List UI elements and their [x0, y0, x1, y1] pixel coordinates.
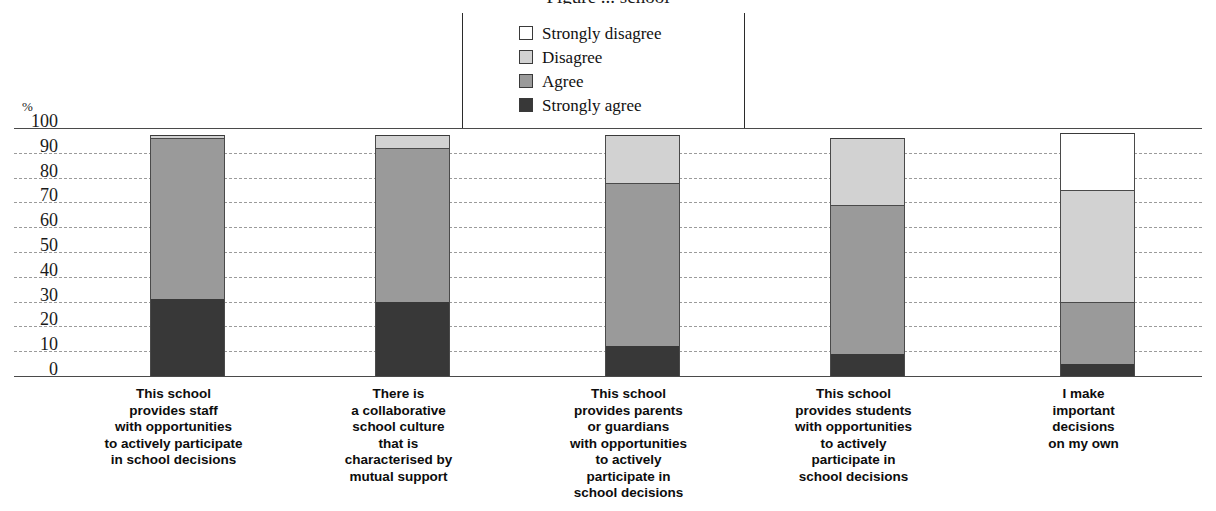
- bar-segment[interactable]: [1060, 302, 1135, 364]
- bar-segment[interactable]: [830, 354, 905, 376]
- category-label-line: important: [969, 403, 1199, 420]
- legend-items: Strongly disagreeDisagreeAgreeStrongly a…: [519, 21, 661, 117]
- axis-bottom-line: [14, 376, 1202, 377]
- bar-segment[interactable]: [605, 135, 680, 182]
- x-axis-category-label: I makeimportantdecisionson my own: [969, 386, 1199, 452]
- legend-item[interactable]: Disagree: [519, 45, 661, 69]
- bar-segment[interactable]: [1060, 364, 1135, 376]
- legend-swatch-icon: [519, 26, 533, 40]
- category-label-line: mutual support: [284, 469, 514, 486]
- category-label-line: to actively: [514, 452, 744, 469]
- category-label-line: to actively participate: [59, 436, 289, 453]
- bar-segment[interactable]: [605, 183, 680, 347]
- legend-swatch-icon: [519, 98, 533, 112]
- category-label-line: with opportunities: [739, 419, 969, 436]
- category-label-line: participate in: [514, 469, 744, 486]
- stacked-bar[interactable]: [830, 128, 905, 376]
- chart-root: Figure ... school Strongly disagreeDisag…: [0, 0, 1216, 511]
- legend-item-label: Agree: [542, 73, 584, 90]
- category-label-line: school decisions: [514, 485, 744, 502]
- stacked-bar[interactable]: [150, 128, 225, 376]
- bar-segment[interactable]: [375, 148, 450, 302]
- x-axis-category-label: This schoolprovides studentswith opportu…: [739, 386, 969, 485]
- legend-swatch-icon: [519, 74, 533, 88]
- category-label-line: participate in: [739, 452, 969, 469]
- bar-segment[interactable]: [150, 135, 225, 137]
- category-label-line: school culture: [284, 419, 514, 436]
- category-label-line: There is: [284, 386, 514, 403]
- x-axis-category-labels: This schoolprovides staffwith opportunit…: [14, 386, 1202, 511]
- legend-item[interactable]: Strongly disagree: [519, 21, 661, 45]
- x-axis-category-label: There isa collaborativeschool culturetha…: [284, 386, 514, 485]
- bar-segment[interactable]: [830, 205, 905, 354]
- bar-segment[interactable]: [375, 135, 450, 147]
- legend-item-label: Strongly disagree: [542, 25, 661, 42]
- stacked-bar[interactable]: [1060, 128, 1135, 376]
- category-label-line: that is: [284, 436, 514, 453]
- chart-legend: Strongly disagreeDisagreeAgreeStrongly a…: [462, 13, 745, 128]
- legend-swatch-icon: [519, 50, 533, 64]
- category-label-line: provides staff: [59, 403, 289, 420]
- category-label-line: to actively: [739, 436, 969, 453]
- legend-item-label: Strongly agree: [542, 97, 642, 114]
- category-label-line: decisions: [969, 419, 1199, 436]
- legend-item[interactable]: Agree: [519, 69, 661, 93]
- legend-item-label: Disagree: [542, 49, 602, 66]
- bar-segment[interactable]: [1060, 133, 1135, 190]
- stacked-bar[interactable]: [605, 128, 680, 376]
- category-label-line: This school: [514, 386, 744, 403]
- category-label-line: provides parents: [514, 403, 744, 420]
- category-label-line: in school decisions: [59, 452, 289, 469]
- category-label-line: a collaborative: [284, 403, 514, 420]
- stacked-bar[interactable]: [375, 128, 450, 376]
- category-label-line: This school: [739, 386, 969, 403]
- plot-area: [14, 128, 1202, 376]
- category-label-line: provides students: [739, 403, 969, 420]
- bar-segment[interactable]: [830, 138, 905, 205]
- x-axis-category-label: This schoolprovides parentsor guardiansw…: [514, 386, 744, 502]
- chart-title: Figure ... school: [0, 0, 1216, 4]
- category-label-line: or guardians: [514, 419, 744, 436]
- legend-item[interactable]: Strongly agree: [519, 93, 661, 117]
- category-label-line: with opportunities: [514, 436, 744, 453]
- bar-segment[interactable]: [375, 302, 450, 376]
- bar-segment[interactable]: [605, 346, 680, 376]
- category-label-line: on my own: [969, 436, 1199, 453]
- x-axis-category-label: This schoolprovides staffwith opportunit…: [59, 386, 289, 469]
- category-label-line: This school: [59, 386, 289, 403]
- bar-segment[interactable]: [1060, 190, 1135, 302]
- category-label-line: with opportunities: [59, 419, 289, 436]
- bar-segment[interactable]: [150, 138, 225, 299]
- category-label-line: school decisions: [739, 469, 969, 486]
- category-label-line: characterised by: [284, 452, 514, 469]
- category-label-line: I make: [969, 386, 1199, 403]
- bar-segment[interactable]: [150, 299, 225, 376]
